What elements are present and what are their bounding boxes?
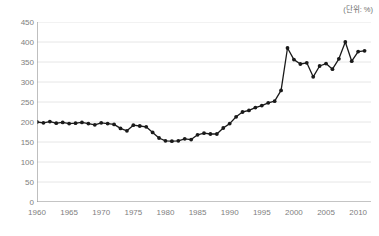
data-point [286,46,290,50]
data-point [253,106,257,110]
data-point [61,121,65,125]
data-point [363,49,367,53]
y-tick-label: 400 [21,38,34,47]
x-tick-label: 1980 [157,208,175,217]
y-tick-label: 450 [21,18,34,27]
data-point [99,121,103,125]
y-tick-label: 150 [21,138,34,147]
series-line [37,42,365,141]
data-point [292,58,296,62]
data-point [350,59,354,63]
x-tick-label: 1965 [60,208,78,217]
data-point [324,62,328,66]
data-point [202,131,206,135]
line-chart: (단위: %) 050100150200250300350400450 1960… [0,0,379,236]
data-point [67,122,71,126]
data-point [138,124,142,128]
data-point [86,122,90,126]
data-point [209,132,213,136]
x-tick-label: 1970 [92,208,110,217]
data-point [196,133,200,137]
data-point [273,99,277,103]
data-point [311,75,315,79]
y-tick-label: 0 [30,198,34,207]
unit-note-label: (단위: %) [343,3,373,14]
x-tick-label: 2010 [349,208,367,217]
data-point [164,139,168,143]
data-point [260,104,264,108]
data-point [144,125,148,129]
data-point [298,62,302,66]
data-point [48,120,52,124]
y-tick-label: 100 [21,158,34,167]
y-tick-label: 300 [21,78,34,87]
x-tick-label: 2005 [317,208,335,217]
data-point [93,123,97,127]
data-point [215,132,219,136]
data-point [356,50,360,54]
data-point [54,121,58,125]
data-point [279,89,283,93]
data-point [131,123,135,127]
data-point [228,122,232,126]
plot-area [37,22,371,202]
y-axis-tick-labels: 050100150200250300350400450 [0,22,34,202]
data-point [125,129,129,133]
series-markers [37,40,366,143]
data-point [241,110,245,114]
y-tick-label: 200 [21,118,34,127]
data-point [183,137,187,141]
data-point [266,101,270,105]
gridlines [37,22,371,182]
data-point [119,127,123,131]
data-point [74,121,78,125]
data-point [112,123,116,127]
data-point [234,115,238,119]
data-point [305,61,309,65]
x-tick-label: 1975 [124,208,142,217]
y-tick-label: 50 [25,178,34,187]
x-tick-label: 2000 [285,208,303,217]
plot-svg [37,22,371,202]
data-point [247,109,251,113]
x-axis-tick-labels: 1960196519701975198019851990199520002005… [37,204,371,224]
y-tick-label: 350 [21,58,34,67]
y-tick-label: 250 [21,98,34,107]
data-point [176,139,180,143]
data-point [221,126,225,130]
x-tick-label: 1960 [28,208,46,217]
x-tick-label: 1990 [221,208,239,217]
data-point [170,139,174,143]
data-point [42,121,46,125]
x-tick-label: 1995 [253,208,271,217]
data-point [343,40,347,44]
data-point [151,131,155,135]
data-point [337,57,341,61]
data-point [189,138,193,142]
data-point [331,67,335,71]
data-point [80,121,84,125]
data-point [106,122,110,126]
x-tick-label: 1985 [189,208,207,217]
data-point [157,136,161,140]
data-point [318,64,322,68]
